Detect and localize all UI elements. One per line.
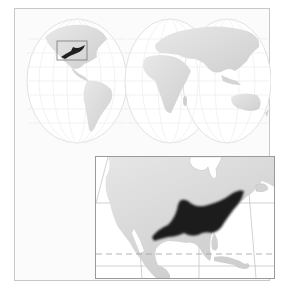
americas-lobe <box>27 19 127 143</box>
eurasia-lobe <box>125 19 271 143</box>
north-america-detail <box>96 157 274 278</box>
inset-map <box>95 156 275 279</box>
map-frame <box>14 8 270 281</box>
world-map <box>15 9 271 149</box>
